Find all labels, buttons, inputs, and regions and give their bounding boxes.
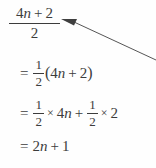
headline-fraction: 4n+2 2	[9, 6, 60, 42]
step-2-fraction-left-denominator: 2	[33, 115, 44, 129]
step-1-coefficient: 4	[50, 66, 58, 81]
step-1-fraction-denominator: 2	[33, 75, 44, 89]
step-2-fraction-left-one-half: 1 2	[33, 98, 44, 128]
step-1-variable: n	[58, 66, 66, 81]
arrow-shaft	[74, 22, 156, 60]
step-1-fraction-numerator: 1	[33, 58, 44, 72]
arrow-head	[61, 19, 77, 26]
headline-numerator-variable: n	[24, 6, 32, 22]
step-2-term-right: 2	[111, 106, 119, 121]
step-2-term-left-variable: n	[64, 106, 72, 121]
step-3-line: = 2n+1	[20, 139, 69, 154]
step-2-line: = 1 2 ×4n + 1 2 ×2	[20, 98, 118, 128]
step-2-fraction-right-denominator: 2	[87, 115, 98, 129]
headline-numerator: 4n+2	[16, 6, 53, 23]
step-2-operator: +	[75, 106, 83, 121]
step-2-fraction-right-one-half: 1 2	[87, 98, 98, 128]
step-3-operator: +	[50, 139, 58, 154]
step-2-times-left: ×	[47, 107, 54, 119]
headline-numerator-constant: 2	[45, 6, 53, 22]
step-1-fraction-one-half: 1 2	[33, 58, 44, 88]
step-2-fraction-left-numerator: 1	[33, 98, 44, 112]
step-1-operator: +	[68, 66, 76, 81]
step-1-equals: =	[20, 66, 28, 81]
step-2-times-right: ×	[101, 107, 108, 119]
headline-numerator-operator: +	[34, 6, 42, 22]
step-3-variable: n	[40, 139, 48, 154]
step-1-line: = 1 2 (4n+2)	[20, 58, 93, 88]
step-1-close-paren: )	[87, 65, 92, 81]
math-solution-page: 4n+2 2 = 1 2 (4n+2) = 1 2 ×4n + 1 2	[0, 0, 156, 168]
step-3-equals: =	[20, 139, 28, 154]
headline-numerator-coefficient: 4	[16, 6, 24, 22]
step-3-constant: 1	[62, 139, 70, 154]
headline-denominator: 2	[31, 24, 39, 42]
step-2-term-left-coefficient: 4	[57, 106, 65, 121]
step-2-equals: =	[20, 106, 28, 121]
step-1-constant: 2	[80, 66, 88, 81]
step-3-coefficient: 2	[32, 139, 40, 154]
step-2-fraction-right-numerator: 1	[87, 98, 98, 112]
